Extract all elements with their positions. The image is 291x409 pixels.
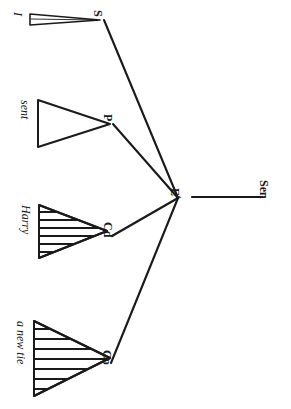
triangle-sent [38, 100, 110, 147]
syntax-tree-diagram: S P Cd Co Et Sen I sent Harry a new tie [0, 0, 291, 409]
edge-e-co [111, 198, 178, 363]
terminal-label-harry: Harry [20, 205, 32, 234]
node-e-t: Et [169, 188, 182, 199]
terminal-label-a-new-tie: a new tie [15, 321, 27, 364]
node-e-t-superscript: t [174, 196, 183, 199]
edge-e-cd [112, 198, 178, 236]
terminal-label-sent: sent [19, 100, 31, 119]
node-s: S [92, 10, 104, 17]
node-sen: Sen [258, 180, 270, 199]
edge-e-s [104, 20, 178, 198]
edge-e-p [113, 124, 178, 198]
tree-svg-canvas [0, 0, 291, 409]
node-p: P [102, 114, 114, 121]
node-e-t-base: E [168, 188, 182, 196]
terminal-label-i: I [12, 12, 24, 16]
node-co: Co [101, 350, 113, 365]
triangle-i [30, 14, 100, 25]
node-cd: Cd [102, 222, 114, 237]
